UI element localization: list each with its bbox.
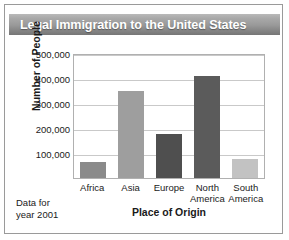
bar	[232, 159, 258, 178]
chart-title-bar: Legal Immigration to the United States	[9, 14, 280, 35]
y-axis-tick-label: 500,000	[20, 49, 70, 60]
bar-slot	[150, 55, 188, 178]
y-axis-tick-label: 300,000	[20, 99, 70, 110]
bar	[118, 91, 144, 179]
x-axis-title: Place of Origin	[73, 206, 265, 218]
y-axis-tick-label: 200,000	[20, 124, 70, 135]
data-year-note-line2: year 2001	[16, 209, 58, 221]
bar	[194, 76, 220, 179]
x-axis-tick-label: North America	[188, 182, 226, 204]
chart-figure: Legal Immigration to the United States N…	[4, 4, 283, 234]
bar-slot	[74, 55, 112, 178]
bar-slot	[112, 55, 150, 178]
plot-area	[73, 54, 265, 179]
bar-slot	[188, 55, 226, 178]
bar	[156, 134, 182, 178]
x-axis-tick-label: Asia	[111, 182, 149, 204]
y-axis-tick-label: 100,000	[20, 149, 70, 160]
bar-series	[74, 55, 264, 178]
chart-title: Legal Immigration to the United States	[20, 18, 246, 32]
bar	[80, 162, 106, 178]
bar-slot	[226, 55, 264, 178]
x-axis-tick-label: South America	[227, 182, 265, 204]
data-year-note-line1: Data for	[16, 197, 58, 209]
x-axis-tick-labels: AfricaAsiaEuropeNorth AmericaSouth Ameri…	[73, 182, 265, 204]
data-year-note: Data for year 2001	[16, 197, 58, 221]
y-axis-tick-label: 400,000	[20, 74, 70, 85]
x-axis-tick-label: Europe	[150, 182, 188, 204]
x-axis-tick-label: Africa	[73, 182, 111, 204]
y-axis-tick-labels: 100,000200,000300,000400,000500,000	[17, 54, 70, 179]
